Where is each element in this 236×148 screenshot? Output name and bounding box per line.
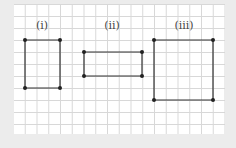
label-ii: (ii)	[104, 19, 120, 32]
rectangle-2	[84, 52, 142, 76]
vertex-dot	[152, 98, 156, 102]
vertex-dot	[58, 86, 62, 90]
vertex-dot	[82, 50, 86, 54]
vertex-dot	[152, 38, 156, 42]
vertex-dot	[140, 50, 144, 54]
vertex-dot	[140, 74, 144, 78]
vertex-dot	[23, 38, 27, 42]
vertex-dot	[211, 38, 215, 42]
vertex-dot	[58, 38, 62, 42]
vertex-dot	[211, 98, 215, 102]
rectangle-3	[154, 40, 213, 100]
rectangle-1	[25, 40, 60, 88]
label-i: (i)	[36, 19, 48, 32]
label-iii: (iii)	[174, 19, 193, 32]
vertex-dot	[82, 74, 86, 78]
vertex-dot	[23, 86, 27, 90]
